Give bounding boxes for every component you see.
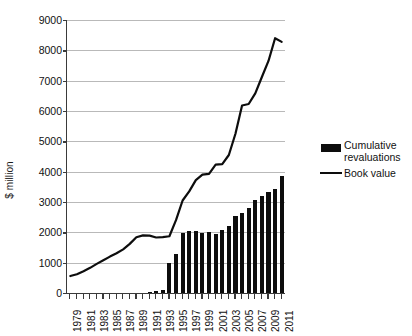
x-tick-2000 xyxy=(208,293,209,299)
legend-label-line-2: revaluations xyxy=(344,152,401,164)
x-tick-1979 xyxy=(69,293,70,299)
x-tick-label-2001: 2001 xyxy=(219,310,229,332)
x-tick-1991 xyxy=(149,293,150,299)
x-tick-1992 xyxy=(155,293,156,299)
legend-label-line-1: Cumulative xyxy=(344,140,401,152)
x-tick-1996 xyxy=(182,293,183,299)
x-tick-1998 xyxy=(195,293,196,299)
x-tick-1984 xyxy=(102,293,103,299)
x-tick-1982 xyxy=(89,293,90,299)
x-tick-label-2005: 2005 xyxy=(245,310,255,332)
x-tick-1980 xyxy=(76,293,77,299)
x-tick-1997 xyxy=(188,293,189,299)
chart-container: $ million 010002000300040005000600070008… xyxy=(0,0,412,336)
x-axis-tick-labels: 1979198119831985198719891991199319951997… xyxy=(66,300,292,336)
legend-label-line-1: Book value xyxy=(344,168,396,180)
x-tick-label-2003: 2003 xyxy=(232,310,242,332)
x-tick-2004 xyxy=(234,293,235,299)
x-tick-1989 xyxy=(135,293,136,299)
x-tick-2002 xyxy=(221,293,222,299)
x-tick-label-1999: 1999 xyxy=(205,310,215,332)
x-tick-2008 xyxy=(261,293,262,299)
y-tick-label-1000: 1000 xyxy=(14,258,62,268)
x-tick-label-1987: 1987 xyxy=(126,310,136,332)
x-tick-2009 xyxy=(267,293,268,299)
x-tick-label-1989: 1989 xyxy=(139,310,149,332)
x-tick-2003 xyxy=(228,293,229,299)
x-axis-ticks xyxy=(66,293,284,299)
y-tick-label-6000: 6000 xyxy=(14,106,62,116)
x-tick-2006 xyxy=(248,293,249,299)
x-tick-label-1991: 1991 xyxy=(153,310,163,332)
x-tick-1986 xyxy=(116,293,117,299)
legend-bar-swatch-icon xyxy=(318,140,344,152)
y-tick-label-8000: 8000 xyxy=(14,45,62,55)
chart-legend: Cumulative revaluations Book value xyxy=(318,140,410,185)
line-series-book-value xyxy=(67,20,285,293)
x-tick-1993 xyxy=(162,293,163,299)
book-value-polyline xyxy=(70,38,281,276)
x-tick-label-1983: 1983 xyxy=(100,310,110,332)
legend-item-cumulative-revaluations: Cumulative revaluations xyxy=(318,140,410,163)
x-tick-2001 xyxy=(215,293,216,299)
y-tick-label-7000: 7000 xyxy=(14,76,62,86)
x-tick-label-1981: 1981 xyxy=(87,310,97,332)
x-tick-label-1993: 1993 xyxy=(166,310,176,332)
y-tick-label-0: 0 xyxy=(14,288,62,298)
y-tick-label-3000: 3000 xyxy=(14,197,62,207)
x-tick-1985 xyxy=(109,293,110,299)
x-tick-label-1997: 1997 xyxy=(192,310,202,332)
x-tick-1983 xyxy=(96,293,97,299)
y-tick-label-9000: 9000 xyxy=(14,15,62,25)
x-tick-2007 xyxy=(254,293,255,299)
y-tick-label-2000: 2000 xyxy=(14,227,62,237)
x-tick-label-2011: 2011 xyxy=(285,310,295,332)
x-tick-2005 xyxy=(241,293,242,299)
x-tick-label-1985: 1985 xyxy=(113,310,123,332)
x-tick-label-2009: 2009 xyxy=(271,310,281,332)
legend-label-cumulative-revaluations: Cumulative revaluations xyxy=(344,140,401,163)
x-tick-2011 xyxy=(281,293,282,299)
legend-item-book-value: Book value xyxy=(318,168,410,180)
legend-line-swatch-icon xyxy=(318,168,344,174)
x-tick-1994 xyxy=(168,293,169,299)
legend-label-book-value: Book value xyxy=(344,168,396,180)
x-tick-1995 xyxy=(175,293,176,299)
y-axis-tick-labels: 0100020003000400050006000700080009000 xyxy=(14,0,62,336)
x-tick-label-2007: 2007 xyxy=(258,310,268,332)
x-tick-1990 xyxy=(142,293,143,299)
y-tick-label-5000: 5000 xyxy=(14,136,62,146)
x-tick-1981 xyxy=(83,293,84,299)
x-tick-2010 xyxy=(274,293,275,299)
x-tick-1988 xyxy=(129,293,130,299)
x-tick-1987 xyxy=(122,293,123,299)
y-tick-label-4000: 4000 xyxy=(14,167,62,177)
x-tick-label-1995: 1995 xyxy=(179,310,189,332)
x-tick-label-1979: 1979 xyxy=(73,310,83,332)
plot-area xyxy=(66,20,285,293)
x-tick-1999 xyxy=(201,293,202,299)
